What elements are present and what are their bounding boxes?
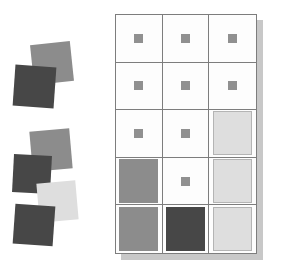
swatch-large-medium[interactable] (119, 207, 158, 251)
swatch-small-medium[interactable] (228, 81, 237, 90)
grid-cell-r4c3[interactable] (209, 158, 256, 206)
swatch-small-medium[interactable] (228, 34, 237, 43)
grid-cell-r2c3[interactable] (209, 63, 256, 111)
lower-cluster (5, 128, 105, 253)
swatch-large-light[interactable] (213, 159, 252, 203)
swatch-grid[interactable] (115, 14, 257, 254)
grid-cell-r2c1[interactable] (116, 63, 163, 111)
swatch-small-medium[interactable] (134, 129, 143, 138)
grid-cell-r1c3[interactable] (209, 15, 256, 63)
swatch-large-medium[interactable] (119, 159, 158, 203)
upper-cluster (10, 12, 105, 122)
swatch-small-medium[interactable] (181, 81, 190, 90)
grid-cell-r1c1[interactable] (116, 15, 163, 63)
grid-cell-r3c2[interactable] (163, 110, 210, 158)
swatch-small-medium[interactable] (181, 177, 190, 186)
grid-cell-r1c2[interactable] (163, 15, 210, 63)
grid-cell-r5c1[interactable] (116, 205, 163, 253)
loose-swatch-dark[interactable] (13, 204, 56, 247)
grid-cell-r4c2[interactable] (163, 158, 210, 206)
swatch-large-light[interactable] (213, 111, 252, 155)
swatch-small-medium[interactable] (181, 129, 190, 138)
grid-cell-r5c3[interactable] (209, 205, 256, 253)
swatch-small-medium[interactable] (181, 34, 190, 43)
grid-cell-r3c1[interactable] (116, 110, 163, 158)
grid-cell-r5c2[interactable] (163, 205, 210, 253)
grid-cell-r3c3[interactable] (209, 110, 256, 158)
loose-swatch-dark[interactable] (13, 65, 57, 109)
swatch-small-medium[interactable] (134, 34, 143, 43)
swatch-large-dark[interactable] (166, 207, 205, 251)
scene-canvas (0, 0, 283, 275)
swatch-large-light[interactable] (213, 207, 252, 251)
grid-cell-r4c1[interactable] (116, 158, 163, 206)
grid-cell-r2c2[interactable] (163, 63, 210, 111)
swatch-small-medium[interactable] (134, 81, 143, 90)
